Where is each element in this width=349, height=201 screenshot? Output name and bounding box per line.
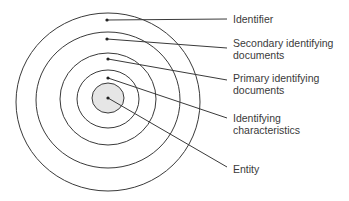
dot-primary	[106, 57, 109, 60]
dot-secondary	[105, 37, 108, 40]
leader-line-identifier	[107, 19, 227, 20]
dot-entity	[106, 96, 109, 99]
label-primary-documents: Primary identifying documents	[233, 72, 319, 96]
leader-line-secondary	[107, 39, 227, 48]
leader-line-characteristics	[108, 78, 227, 118]
leader-line-entity	[108, 98, 227, 167]
dot-identifier	[105, 18, 108, 21]
dot-characteristics	[106, 76, 109, 79]
concentric-diagram	[0, 0, 349, 201]
label-identifier: Identifier	[233, 13, 273, 25]
label-secondary-documents: Secondary identifying documents	[233, 37, 333, 61]
label-identifying-characteristics: Identifying characteristics	[233, 112, 300, 136]
label-entity: Entity	[233, 163, 259, 175]
